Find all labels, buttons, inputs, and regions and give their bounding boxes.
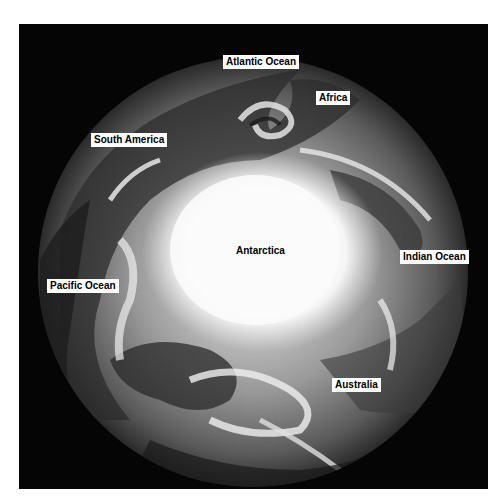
- label-atlantic-ocean: Atlantic Ocean: [223, 55, 299, 69]
- label-indian-ocean: Indian Ocean: [400, 250, 469, 264]
- label-africa: Africa: [316, 91, 350, 105]
- label-south-america: South America: [91, 133, 167, 147]
- label-pacific-ocean: Pacific Ocean: [47, 279, 119, 293]
- label-antarctica: Antarctica: [233, 244, 288, 258]
- label-australia: Australia: [332, 378, 381, 392]
